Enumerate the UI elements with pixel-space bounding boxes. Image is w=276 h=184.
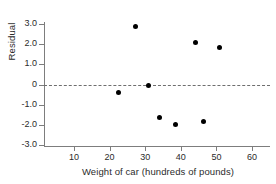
y-axis-tick-label-text: -3.0 (3, 139, 37, 149)
y-axis-tick (39, 44, 44, 45)
data-point (157, 115, 162, 120)
y-axis-tick-label-text: 3.0 (3, 18, 37, 28)
y-axis-tick-label: -3.0 (0, 139, 37, 151)
residual-plot-figure: Residual Weight of car (hundreds of poun… (0, 0, 276, 184)
y-axis-tick-label-text: 1.0 (3, 58, 37, 68)
x-axis-tick (74, 146, 75, 151)
x-axis-tick-label-text: 10 (59, 152, 89, 162)
x-axis-tick (145, 146, 146, 151)
data-point (116, 90, 121, 95)
data-point (173, 122, 178, 127)
y-axis-tick-label-text: 0 (3, 79, 37, 89)
x-axis-tick (110, 146, 111, 151)
x-axis-tick-label: 60 (237, 152, 267, 164)
x-axis-tick-label-text: 40 (166, 152, 196, 162)
y-axis-tick-label-text: 2.0 (3, 38, 37, 48)
x-axis-tick-label-text: 50 (201, 152, 231, 162)
x-axis-tick-label-text: 30 (130, 152, 160, 162)
y-axis-tick (39, 105, 44, 106)
x-axis-tick-label-text: 60 (237, 152, 267, 162)
y-axis-tick-label-text: -1.0 (3, 99, 37, 109)
y-axis-tick-label: 0 (0, 79, 37, 91)
y-axis-tick (39, 24, 44, 25)
data-point (133, 24, 138, 29)
data-point (201, 119, 206, 124)
data-point (193, 40, 198, 45)
y-axis-tick-label: 1.0 (0, 58, 37, 70)
x-axis-tick (252, 146, 253, 151)
y-axis-tick-label: 2.0 (0, 38, 37, 50)
plot-area: 3.02.01.00-1.0-2.0-3.0102030405060 (0, 0, 276, 184)
x-axis-spine (44, 146, 270, 147)
data-point (146, 83, 151, 88)
y-axis-tick-label: -2.0 (0, 119, 37, 131)
y-axis-tick-label-text: -2.0 (3, 119, 37, 129)
x-axis-tick (216, 146, 217, 151)
x-axis-tick-label: 40 (166, 152, 196, 164)
x-axis-tick (181, 146, 182, 151)
y-axis-tick (39, 64, 44, 65)
zero-reference-line (44, 85, 270, 86)
data-point (217, 45, 222, 50)
y-axis-tick-label: -1.0 (0, 99, 37, 111)
x-axis-tick-label: 10 (59, 152, 89, 164)
y-axis-tick (39, 145, 44, 146)
y-axis-tick (39, 125, 44, 126)
y-axis-tick-label: 3.0 (0, 18, 37, 30)
x-axis-tick-label: 20 (95, 152, 125, 164)
x-axis-tick-label-text: 20 (95, 152, 125, 162)
x-axis-tick-label: 30 (130, 152, 160, 164)
x-axis-tick-label: 50 (201, 152, 231, 164)
